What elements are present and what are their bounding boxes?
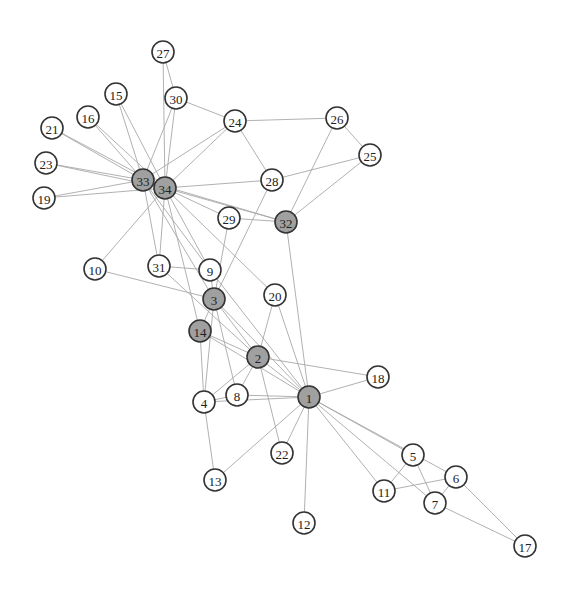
- node-label: 1: [306, 391, 313, 406]
- node-13: 13: [204, 469, 226, 491]
- node-label: 7: [432, 497, 439, 512]
- node-22: 22: [271, 442, 293, 464]
- node-14: 14: [189, 320, 211, 342]
- node-12: 12: [293, 512, 315, 534]
- node-label: 33: [137, 174, 150, 189]
- node-30: 30: [165, 87, 187, 109]
- node-33: 33: [132, 169, 154, 191]
- node-label: 12: [298, 517, 311, 532]
- node-11: 11: [373, 480, 395, 502]
- node-18: 18: [367, 366, 389, 388]
- node-9: 9: [199, 259, 221, 281]
- node-label: 23: [40, 157, 53, 172]
- node-29: 29: [218, 207, 240, 229]
- node-label: 19: [38, 192, 51, 207]
- node-label: 13: [209, 474, 222, 489]
- node-7: 7: [424, 492, 446, 514]
- node-label: 30: [170, 92, 183, 107]
- node-24: 24: [224, 110, 246, 132]
- node-19: 19: [33, 187, 55, 209]
- node-23: 23: [35, 152, 57, 174]
- node-26: 26: [326, 107, 348, 129]
- node-34: 34: [154, 177, 176, 199]
- node-31: 31: [148, 255, 170, 277]
- node-label: 5: [410, 449, 417, 464]
- node-4: 4: [193, 391, 215, 413]
- node-1: 1: [298, 386, 320, 408]
- node-label: 34: [159, 182, 173, 197]
- node-label: 27: [157, 46, 171, 61]
- node-label: 4: [201, 396, 208, 411]
- node-label: 10: [89, 263, 102, 278]
- node-label: 14: [194, 325, 208, 340]
- node-label: 18: [372, 371, 385, 386]
- node-32: 32: [275, 211, 297, 233]
- node-label: 29: [223, 212, 236, 227]
- node-label: 15: [110, 88, 123, 103]
- node-6: 6: [445, 466, 467, 488]
- node-label: 20: [269, 289, 282, 304]
- node-21: 21: [41, 117, 63, 139]
- node-label: 6: [453, 471, 460, 486]
- node-27: 27: [152, 41, 174, 63]
- node-label: 11: [378, 485, 391, 500]
- node-label: 32: [280, 216, 293, 231]
- node-2: 2: [247, 346, 269, 368]
- node-label: 21: [46, 122, 59, 137]
- node-25: 25: [359, 144, 381, 166]
- node-8: 8: [226, 384, 248, 406]
- node-10: 10: [84, 258, 106, 280]
- node-label: 22: [276, 447, 289, 462]
- node-3: 3: [203, 288, 225, 310]
- node-label: 16: [82, 111, 96, 126]
- node-label: 8: [234, 389, 241, 404]
- node-5: 5: [402, 444, 424, 466]
- node-label: 9: [207, 264, 214, 279]
- node-20: 20: [264, 284, 286, 306]
- network-graph: 1234567891011121314151617181920212223242…: [0, 0, 569, 590]
- node-label: 2: [255, 351, 262, 366]
- node-16: 16: [77, 106, 99, 128]
- node-label: 17: [519, 540, 533, 555]
- node-label: 25: [364, 149, 377, 164]
- node-label: 31: [153, 260, 166, 275]
- node-label: 3: [211, 293, 218, 308]
- node-label: 26: [331, 112, 345, 127]
- node-28: 28: [261, 169, 283, 191]
- node-label: 24: [229, 115, 243, 130]
- node-15: 15: [105, 83, 127, 105]
- node-17: 17: [514, 535, 536, 557]
- node-label: 28: [266, 174, 279, 189]
